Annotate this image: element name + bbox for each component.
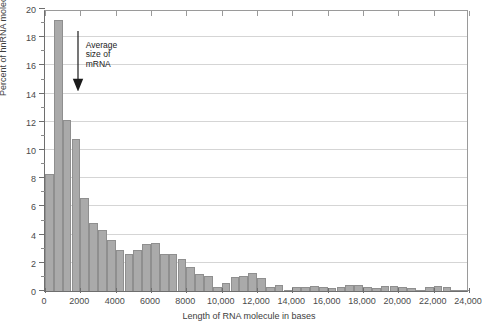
y-axis-minor-tick	[41, 163, 45, 164]
histogram-bar	[275, 285, 284, 291]
histogram-bar	[231, 277, 240, 291]
x-axis-tick	[469, 288, 470, 293]
x-axis-tick-label: 0	[41, 296, 46, 306]
histogram-bar	[345, 285, 354, 291]
x-axis-tick	[80, 288, 81, 293]
y-axis-minor-tick	[41, 79, 45, 80]
y-axis-tick	[39, 177, 45, 178]
histogram-bar	[142, 244, 151, 291]
x-axis-top-tick	[469, 11, 470, 16]
x-axis-tick-label: 16,000	[313, 296, 341, 306]
histogram-bar	[292, 287, 301, 291]
histogram-bar	[390, 286, 399, 291]
histogram-bar	[89, 223, 98, 291]
x-axis-top-tick	[222, 11, 223, 16]
y-axis-minor-tick	[41, 191, 45, 192]
x-axis-top-tick	[328, 11, 329, 16]
histogram-bar	[125, 254, 134, 291]
x-axis-title: Length of RNA molecule in bases	[0, 311, 498, 321]
y-axis-tick-label: 20	[0, 5, 36, 15]
histogram-bar	[381, 286, 390, 291]
x-axis-top-tick	[80, 11, 81, 16]
histogram-bar	[248, 273, 257, 291]
y-axis-tick-label: 0	[0, 287, 36, 297]
x-axis-tick	[116, 288, 117, 293]
x-axis-tick-label: 4000	[105, 296, 125, 306]
histogram-bar	[133, 250, 142, 291]
y-axis-tick-label: 4	[0, 231, 36, 241]
histogram-bar	[178, 259, 187, 291]
histogram-bar	[425, 287, 434, 291]
histogram-bar	[301, 287, 310, 291]
down-arrow-icon	[71, 31, 85, 96]
x-axis-tick-label: 20,000	[384, 296, 412, 306]
histogram-bar	[310, 286, 319, 291]
y-axis-tick	[39, 234, 45, 235]
histogram-bar	[151, 243, 160, 291]
histogram-bar	[416, 290, 425, 291]
y-axis-minor-tick	[41, 22, 45, 23]
y-axis-tick	[39, 205, 45, 206]
x-axis-tick-label: 6000	[140, 296, 160, 306]
histogram-bar	[451, 290, 460, 291]
histogram-bar	[407, 288, 416, 291]
x-axis-tick-label: 22,000	[419, 296, 447, 306]
histogram-bar	[107, 240, 116, 291]
x-axis-tick-label: 8000	[175, 296, 195, 306]
y-axis-tick-label: 8	[0, 174, 36, 184]
histogram-bar	[98, 230, 107, 291]
histogram-bar	[443, 287, 452, 291]
y-axis-tick-label: 6	[0, 202, 36, 212]
y-axis-minor-tick	[41, 248, 45, 249]
histogram-bar	[284, 290, 293, 291]
histogram-bar	[72, 139, 81, 291]
x-axis-top-tick	[151, 11, 152, 16]
x-axis-top-tick	[363, 11, 364, 16]
x-axis-tick	[292, 288, 293, 293]
x-axis-tick	[434, 288, 435, 293]
histogram-bar	[186, 267, 195, 291]
y-axis-tick-label: 18	[0, 33, 36, 43]
x-axis-tick-label: 10,000	[207, 296, 235, 306]
y-axis-minor-tick	[41, 135, 45, 136]
cropped-caption-sliver	[0, 0, 498, 1]
x-axis-tick-label: 2000	[69, 296, 89, 306]
x-axis-tick	[257, 288, 258, 293]
x-axis-tick	[222, 288, 223, 293]
x-axis-tick-label: 14,000	[278, 296, 306, 306]
histogram-bar	[169, 254, 178, 291]
x-axis-tick-label: 24,000	[454, 296, 482, 306]
y-axis-tick-label: 14	[0, 90, 36, 100]
x-axis-tick-label: 18,000	[348, 296, 376, 306]
histogram-bar	[266, 287, 275, 291]
y-axis-tick-label: 2	[0, 259, 36, 269]
x-axis-tick	[186, 288, 187, 293]
x-axis-tick	[398, 288, 399, 293]
y-axis-minor-tick	[41, 50, 45, 51]
histogram-bar	[80, 198, 89, 291]
x-axis-tick	[45, 288, 46, 293]
histogram-bar	[204, 276, 213, 292]
histogram-bar	[222, 283, 231, 291]
y-axis-minor-tick	[41, 220, 45, 221]
y-axis-tick	[39, 121, 45, 122]
y-axis-tick	[39, 64, 45, 65]
y-axis-tick-label: 12	[0, 118, 36, 128]
histogram-bar	[328, 288, 337, 291]
histogram-bar	[239, 276, 248, 292]
histogram-bar	[398, 287, 407, 291]
y-axis-minor-tick	[41, 276, 45, 277]
y-axis-tick	[39, 36, 45, 37]
histogram-bar	[363, 287, 372, 291]
histogram-bar	[63, 120, 72, 291]
x-axis-tick	[363, 288, 364, 293]
y-axis-tick	[39, 93, 45, 94]
x-axis-top-tick	[116, 11, 117, 16]
histogram-bar	[195, 274, 204, 291]
x-axis-tick	[328, 288, 329, 293]
histogram-bar	[160, 254, 169, 291]
x-axis-tick	[151, 288, 152, 293]
y-axis-tick	[39, 149, 45, 150]
x-axis-top-tick	[257, 11, 258, 16]
histogram-bar	[319, 287, 328, 291]
